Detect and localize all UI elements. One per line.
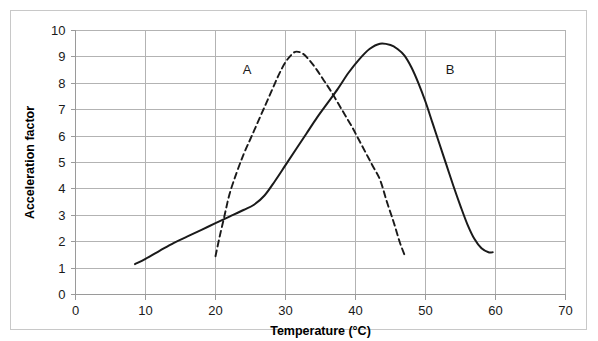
x-tick-label: 50 bbox=[418, 303, 432, 318]
y-tick-label: 9 bbox=[58, 49, 65, 64]
series-annotation-a: A bbox=[243, 62, 252, 77]
series-curve-b bbox=[135, 43, 493, 264]
y-tick-label: 0 bbox=[58, 287, 65, 302]
y-axis-title: Acceleration factor bbox=[23, 106, 37, 219]
y-tick-labels-group: 012345678910 bbox=[51, 23, 65, 302]
chart-figure: 010203040506070 012345678910 AB Temperat… bbox=[0, 0, 598, 341]
series-annotation-b: B bbox=[446, 62, 455, 77]
y-tick-label: 8 bbox=[58, 76, 65, 91]
y-tick-label: 10 bbox=[51, 23, 65, 38]
x-tick-label: 40 bbox=[348, 303, 362, 318]
series-curve-a bbox=[216, 52, 405, 257]
x-tick-label: 30 bbox=[278, 303, 292, 318]
x-tick-label: 20 bbox=[208, 303, 222, 318]
y-tick-label: 5 bbox=[58, 155, 65, 170]
y-tick-label: 1 bbox=[58, 261, 65, 276]
x-tick-label: 70 bbox=[558, 303, 572, 318]
x-tick-label: 0 bbox=[72, 303, 79, 318]
y-tick-label: 4 bbox=[58, 181, 65, 196]
y-tick-label: 6 bbox=[58, 129, 65, 144]
y-tick-marks-group bbox=[71, 31, 76, 295]
x-tick-label: 10 bbox=[138, 303, 152, 318]
series-annotations-group: AB bbox=[243, 62, 455, 77]
x-tick-marks-group bbox=[76, 295, 566, 300]
x-tick-labels-group: 010203040506070 bbox=[72, 303, 573, 318]
x-tick-label: 60 bbox=[488, 303, 502, 318]
x-axis-title: Temperature (°C) bbox=[270, 324, 371, 338]
y-tick-label: 2 bbox=[58, 234, 65, 249]
grid-horizontal-group bbox=[76, 31, 566, 269]
series-group bbox=[135, 43, 493, 264]
y-tick-label: 3 bbox=[58, 208, 65, 223]
y-tick-label: 7 bbox=[58, 102, 65, 117]
acceleration-factor-vs-temperature-chart: 010203040506070 012345678910 AB Temperat… bbox=[0, 0, 598, 341]
